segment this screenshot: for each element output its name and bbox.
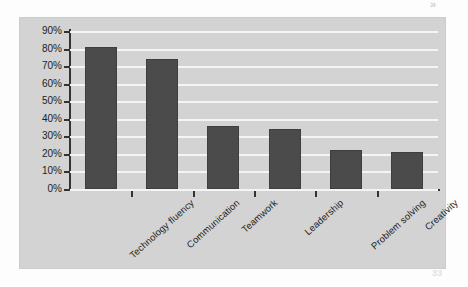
- gridline: [70, 154, 438, 156]
- y-axis-tick-label: 10%: [42, 166, 62, 176]
- y-axis-tick-mark: [64, 49, 70, 51]
- y-axis-tick-mark: [64, 171, 70, 173]
- y-axis-tick-labels: 0%10%20%30%40%50%60%70%80%90%: [20, 18, 62, 268]
- y-axis-tick-mark: [64, 31, 70, 33]
- bar: [330, 150, 362, 189]
- chart-panel: 0%10%20%30%40%50%60%70%80%90% Technology…: [20, 18, 445, 268]
- y-axis-tick-mark: [64, 101, 70, 103]
- x-axis-tick-mark: [131, 191, 133, 197]
- y-axis-tick-mark: [64, 189, 70, 191]
- scan-artifact-top: »: [430, 0, 435, 10]
- x-axis-tick-mark: [193, 191, 195, 197]
- gridline: [70, 101, 438, 103]
- x-axis-tick-label: Creativity: [423, 197, 461, 232]
- x-axis-tick-label: Problem solving: [369, 197, 428, 251]
- y-axis-tick-label: 80%: [42, 44, 62, 54]
- x-axis-tick-mark: [254, 191, 256, 197]
- y-axis-tick-label: 60%: [42, 79, 62, 89]
- bar: [146, 59, 178, 189]
- y-axis-tick-label: 90%: [42, 26, 62, 36]
- scan-artifact-bottom: 33: [432, 268, 442, 278]
- x-axis-tick-mark: [377, 191, 379, 197]
- bar: [85, 47, 117, 189]
- bar: [391, 152, 423, 189]
- y-axis-tick-mark: [64, 66, 70, 68]
- y-axis-tick-mark: [64, 136, 70, 138]
- x-axis-tick-mark: [315, 191, 317, 197]
- x-axis-tick-label: Teamwork: [240, 197, 280, 235]
- gridline: [70, 49, 438, 51]
- y-axis-tick-mark: [64, 154, 70, 156]
- x-axis-tick-label: Technology fluency: [127, 197, 196, 260]
- gridline: [70, 31, 438, 33]
- bar: [269, 129, 301, 189]
- y-axis-tick-label: 40%: [42, 114, 62, 124]
- y-axis-tick-label: 50%: [42, 96, 62, 106]
- y-axis-tick-label: 70%: [42, 61, 62, 71]
- x-axis-tick-label: Leadership: [302, 197, 345, 237]
- y-axis-tick-mark: [64, 84, 70, 86]
- gridline: [70, 136, 438, 138]
- y-axis-tick-label: 20%: [42, 149, 62, 159]
- y-axis-tick-label: 30%: [42, 131, 62, 141]
- bar: [207, 126, 239, 189]
- y-axis-tick-mark: [64, 119, 70, 121]
- gridline: [70, 66, 438, 68]
- plot-area: [70, 31, 438, 189]
- y-axis-tick-label: 0%: [48, 184, 62, 194]
- gridline: [70, 84, 438, 86]
- gridline: [70, 171, 438, 173]
- gridline: [70, 119, 438, 121]
- chart-figure: » 0%10%20%30%40%50%60%70%80%90% Technolo…: [0, 0, 468, 287]
